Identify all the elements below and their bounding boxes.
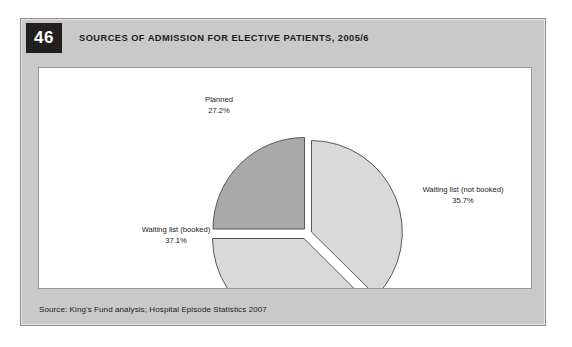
pie-slice-planned[interactable]: [213, 138, 305, 230]
pie-chart-svg: [39, 68, 532, 289]
pie-label-planned-name: Planned: [205, 95, 233, 104]
pie-label-waiting-list-not-booked-name: Waiting list (not booked): [422, 185, 503, 194]
pie-chart: Planned 27.2% Waiting list (not booked) …: [39, 68, 531, 288]
figure-number-badge: 46: [26, 23, 62, 53]
figure-panel: 46 Sources of admission for elective pat…: [20, 18, 546, 326]
figure-title: Sources of admission for elective patien…: [79, 33, 369, 43]
pie-label-waiting-list-not-booked-value: 35.7%: [401, 195, 525, 206]
pie-label-planned: Planned 27.2%: [176, 94, 262, 116]
pie-label-waiting-list-not-booked: Waiting list (not booked) 35.7%: [401, 184, 525, 206]
source-note: Source: King's Fund analysis; Hospital E…: [39, 305, 267, 314]
pie-label-waiting-list-booked-name: Waiting list (booked): [142, 225, 211, 234]
pie-label-waiting-list-booked: Waiting list (booked) 37.1%: [115, 224, 237, 246]
pie-label-waiting-list-booked-value: 37.1%: [115, 235, 237, 246]
pie-label-planned-value: 27.2%: [176, 105, 262, 116]
chart-plot-area: Planned 27.2% Waiting list (not booked) …: [38, 67, 532, 289]
figure-header: 46 Sources of admission for elective pat…: [21, 19, 545, 56]
